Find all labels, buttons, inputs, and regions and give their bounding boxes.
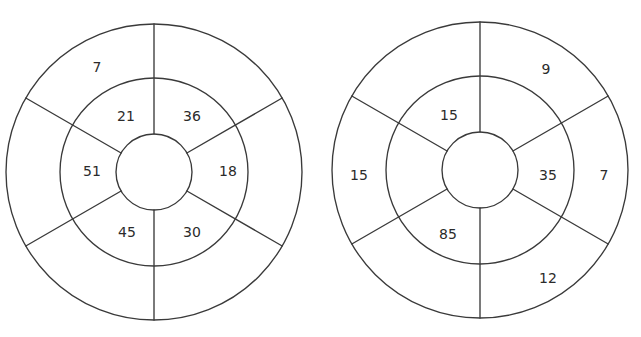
left-inner-label-upper-left: 21 — [117, 108, 135, 124]
right-outer-label-lower-right: 12 — [539, 270, 557, 286]
left-outer-label-upper-left: 7 — [93, 59, 102, 75]
wheels-svg: 21 36 18 30 45 51 7 — [0, 0, 641, 337]
right-spoke-30 — [513, 96, 608, 151]
right-spoke-330 — [513, 189, 608, 244]
left-spoke-150 — [26, 98, 121, 153]
left-hub-circle — [116, 134, 192, 210]
left-spoke-210 — [26, 191, 121, 246]
diagram-canvas: 21 36 18 30 45 51 7 — [0, 0, 641, 337]
left-inner-label-lower-right: 30 — [183, 224, 201, 240]
right-spoke-210 — [352, 189, 447, 244]
right-inner-label-lower-left: 85 — [439, 226, 457, 242]
left-inner-label-lower-left: 45 — [118, 224, 136, 240]
right-inner-label-right: 35 — [539, 167, 557, 183]
left-wheel: 21 36 18 30 45 51 7 — [6, 24, 302, 320]
left-inner-label-upper-right: 36 — [183, 108, 201, 124]
right-hub-circle — [442, 132, 518, 208]
left-inner-label-right: 18 — [219, 163, 237, 179]
right-outer-label-left: 15 — [350, 167, 368, 183]
right-inner-label-upper-left: 15 — [440, 107, 458, 123]
right-outer-label-right: 7 — [600, 167, 609, 183]
left-spoke-330 — [187, 191, 282, 246]
right-spoke-150 — [352, 96, 447, 151]
right-outer-label-upper-right: 9 — [542, 61, 551, 77]
left-spoke-30 — [187, 98, 282, 153]
left-inner-label-left: 51 — [83, 163, 101, 179]
right-wheel: 15 35 85 9 7 12 15 — [332, 22, 628, 318]
